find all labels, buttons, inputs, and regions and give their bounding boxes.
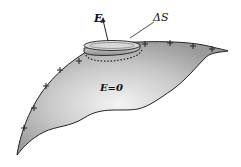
area-label: ΔS — [153, 12, 168, 23]
field-label: E — [94, 13, 102, 24]
interior-field-label: E=0 — [100, 83, 123, 93]
gaussian-pillbox — [84, 41, 140, 56]
area-leader-line — [130, 22, 154, 38]
conductor-body — [17, 42, 228, 155]
